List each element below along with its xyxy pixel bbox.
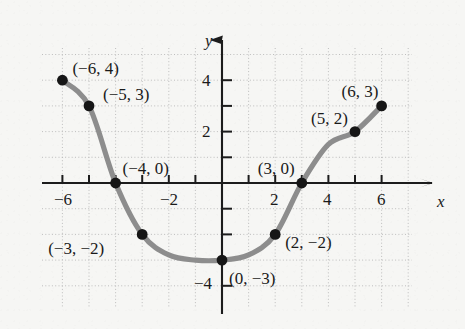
x-tick-label-6: 6: [377, 191, 386, 208]
point-label: (2, −2): [285, 234, 331, 251]
y-tick-label--4: −4: [194, 275, 212, 292]
data-point: [350, 126, 361, 137]
data-point: [376, 101, 387, 112]
x-tick-label--2: −2: [160, 191, 178, 208]
point-label: (−6, 4): [72, 60, 118, 77]
x-tick-label-4: 4: [323, 191, 332, 208]
point-label: (5, 2): [311, 110, 348, 127]
y-tick-label-4: 4: [202, 72, 211, 89]
chart-figure: (−6, 4)(−5, 3)(−4, 0)(−3, −2)(0, −3)(2, …: [0, 0, 465, 329]
point-label: (−4, 0): [123, 160, 169, 177]
x-tick-label-2: 2: [270, 191, 279, 208]
data-point: [270, 229, 281, 240]
point-label: (0, −3): [229, 270, 275, 287]
x-axis-title: x: [437, 193, 445, 210]
point-label: (6, 3): [342, 83, 379, 100]
y-axis-title: y: [205, 32, 213, 49]
y-tick-label-2: 2: [202, 123, 211, 140]
x-tick-label--6: −6: [54, 191, 72, 208]
data-point: [110, 178, 121, 189]
data-point: [84, 101, 95, 112]
data-point: [137, 229, 148, 240]
point-label: (−3, −2): [48, 240, 104, 257]
data-point: [296, 178, 307, 189]
data-point: [57, 75, 68, 86]
point-label: (−5, 3): [103, 86, 149, 103]
point-label: (3, 0): [258, 160, 295, 177]
data-point: [217, 255, 228, 266]
